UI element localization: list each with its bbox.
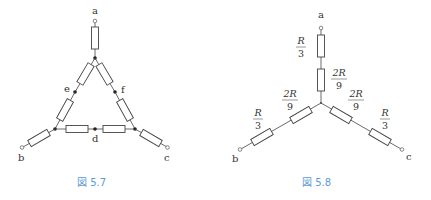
terminal-label-c-58: c — [406, 151, 412, 162]
svg-text:3: 3 — [298, 48, 304, 59]
resistor-c — [140, 129, 163, 146]
node-label-f: f — [121, 84, 126, 95]
label-c-outer: R 3 — [380, 107, 390, 131]
resistor-bl-d — [66, 126, 88, 133]
terminal-b-58 — [238, 148, 242, 152]
resistor-top-f — [96, 63, 113, 86]
resistor-c-outer — [369, 128, 392, 145]
terminal-label-c: c — [164, 152, 170, 163]
terminal-c — [166, 146, 170, 150]
figure-5-8: a R 3 2R 9 b 2R 9 — [232, 9, 412, 188]
svg-text:9: 9 — [287, 101, 293, 112]
svg-text:3: 3 — [255, 120, 261, 131]
label-a-outer: R 3 — [296, 35, 306, 59]
terminal-c-58 — [400, 148, 404, 152]
terminal-label-b-58: b — [232, 153, 238, 164]
resistor-c-inner — [330, 106, 353, 123]
svg-text:R: R — [380, 107, 388, 118]
terminal-a — [93, 19, 97, 23]
node-label-d: d — [92, 133, 99, 144]
svg-text:2R: 2R — [348, 88, 362, 99]
svg-text:9: 9 — [336, 80, 342, 91]
svg-text:2R: 2R — [331, 67, 345, 78]
terminal-a-58 — [319, 26, 323, 30]
terminal-label-b: b — [18, 152, 24, 163]
terminal-b — [20, 146, 24, 150]
node-label-e: e — [64, 83, 70, 94]
resistor-a-inner — [318, 69, 325, 91]
diagram-canvas: a e f d — [0, 0, 431, 200]
resistor-e-bl — [57, 99, 74, 122]
resistor-f-br — [117, 99, 134, 122]
caption-fig-5-8: 図 5.8 — [302, 177, 331, 188]
label-a-inner: 2R 9 — [331, 67, 347, 91]
label-b-inner: 2R 9 — [282, 88, 298, 112]
terminal-label-a: a — [92, 5, 98, 16]
caption-fig-5-7: 図 5.7 — [77, 177, 106, 188]
resistor-b-inner — [290, 106, 313, 123]
svg-text:R: R — [253, 107, 261, 118]
svg-text:9: 9 — [353, 101, 359, 112]
resistor-a — [92, 27, 99, 49]
resistor-b — [28, 129, 51, 146]
terminal-label-a-58: a — [318, 9, 324, 20]
resistor-a-outer — [318, 35, 325, 57]
label-c-inner: 2R 9 — [348, 88, 364, 112]
resistor-d-br — [103, 126, 125, 133]
svg-text:3: 3 — [382, 120, 388, 131]
resistor-top-e — [77, 63, 94, 86]
resistor-b-outer — [251, 128, 274, 145]
label-b-outer: R 3 — [253, 107, 263, 131]
svg-text:R: R — [296, 35, 304, 46]
node-d — [93, 127, 97, 131]
svg-text:2R: 2R — [282, 88, 296, 99]
figure-5-7: a e f d — [18, 5, 170, 188]
